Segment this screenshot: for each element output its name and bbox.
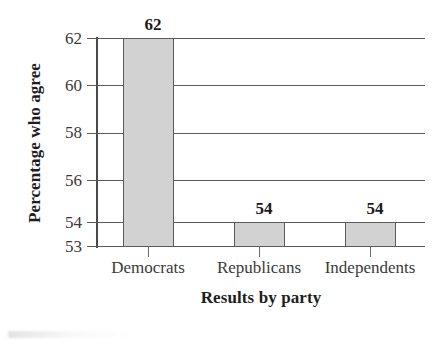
y-tick-label-53: 53 — [48, 238, 82, 255]
x-category-label-independents: Independents — [315, 258, 425, 277]
bar-value-republicans: 54 — [209, 200, 319, 217]
bar-independents — [345, 222, 396, 247]
bar-value-democrats: 62 — [98, 16, 208, 33]
bar-democrats — [123, 38, 174, 247]
y-tick-label-60: 60 — [48, 77, 82, 94]
y-tick-mark-56 — [87, 180, 96, 181]
x-category-label-republicans: Republicans — [204, 258, 314, 277]
bar-republicans — [234, 222, 285, 247]
y-tick-label-54: 54 — [48, 214, 82, 231]
bar-value-independents: 54 — [320, 200, 430, 217]
bar-chart-figure: Percentage who agree 62 60 58 56 54 53 6… — [0, 0, 442, 345]
y-tick-mark-58 — [87, 133, 96, 134]
x-axis-title: Results by party — [96, 288, 426, 308]
y-tick-mark-62 — [87, 38, 96, 39]
y-tick-label-58: 58 — [48, 124, 82, 141]
y-tick-mark-53 — [87, 246, 96, 247]
x-tick-mark-independents — [370, 247, 371, 257]
y-tick-label-62: 62 — [48, 30, 82, 47]
x-tick-mark-democrats — [148, 247, 149, 257]
y-tick-label-56: 56 — [48, 172, 82, 189]
scan-artifact — [8, 331, 128, 338]
x-category-label-democrats: Democrats — [93, 258, 203, 277]
y-tick-mark-60 — [87, 85, 96, 86]
y-tick-mark-54 — [87, 222, 96, 223]
y-axis-tick-labels: 62 60 58 56 54 53 — [46, 0, 82, 345]
x-tick-mark-republicans — [259, 247, 260, 257]
